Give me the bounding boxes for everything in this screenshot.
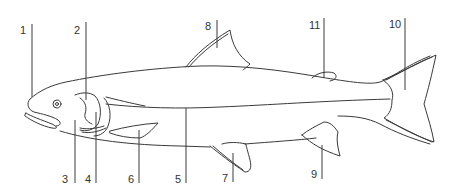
- preoperculum: [80, 98, 92, 124]
- caudal-fin-ray-lower: [386, 120, 432, 142]
- label-10: 10: [389, 18, 401, 30]
- label-11: 11: [309, 19, 320, 31]
- dorsal-fin-ray: [189, 34, 228, 67]
- fish-anatomy-diagram: 1 2 3 4 5 6 7 8 9 10 11: [0, 0, 458, 194]
- ventral-outline-tail: [338, 116, 430, 144]
- label-9: 9: [311, 168, 317, 180]
- eye: [53, 100, 61, 108]
- pelvic-fin-ray: [213, 146, 243, 170]
- ventral-outline-mid: [245, 138, 316, 144]
- label-7: 7: [222, 172, 228, 184]
- label-5: 5: [175, 173, 181, 185]
- label-4: 4: [85, 173, 91, 185]
- label-2: 2: [74, 24, 80, 36]
- fish-head: [25, 93, 110, 136]
- label-1: 1: [20, 24, 26, 36]
- pectoral-fin: [110, 123, 158, 138]
- lower-jaw: [25, 113, 57, 128]
- label-3: 3: [62, 173, 68, 185]
- pelvic-fin: [210, 143, 251, 173]
- lateral-line: [106, 99, 390, 108]
- pupil: [56, 103, 59, 106]
- operculum: [75, 93, 100, 131]
- ventral-outline: [60, 131, 210, 147]
- dorsal-fin: [186, 30, 250, 70]
- label-6: 6: [128, 173, 134, 185]
- fish-body: [30, 56, 430, 147]
- branchiostegal-rays: [80, 126, 106, 133]
- label-8: 8: [205, 20, 211, 32]
- dorsal-outline: [30, 56, 430, 99]
